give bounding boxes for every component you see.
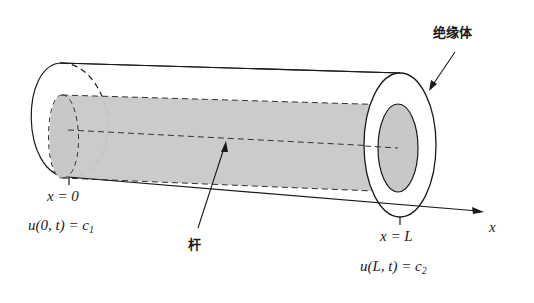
boundary-condition-right: u(L, t) = c2: [360, 259, 427, 276]
diagram-graphic: [0, 0, 534, 303]
position-label-x0: x = 0: [47, 189, 79, 204]
rod: [49, 95, 398, 192]
insulator-pointer-line: [432, 52, 455, 86]
insulator-top-edge: [60, 63, 400, 73]
boundary-condition-left: u(0, t) = c1: [28, 218, 94, 235]
insulator-pointer-arrowhead: [429, 80, 437, 91]
right-end-face: [364, 73, 436, 217]
axis-label-x: x: [489, 220, 496, 235]
insulator-label: 绝缘体: [433, 26, 472, 39]
position-label-xL: x = L: [380, 229, 413, 244]
heat-rod-diagram: 绝缘体 杆 x x = 0 x = L u(0, t) = c1 u(L, t)…: [0, 0, 534, 303]
rod-label: 杆: [188, 238, 201, 251]
